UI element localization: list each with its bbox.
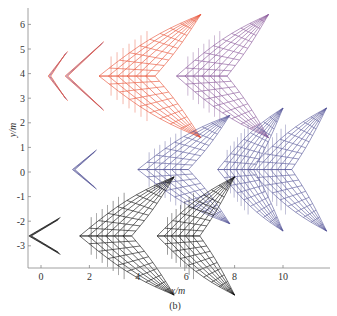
- x-tick-label: 8: [232, 271, 237, 282]
- formation-snapshot: [65, 42, 104, 111]
- plot-area: [29, 15, 327, 295]
- y-ticks: -3-2-10123456: [17, 19, 31, 251]
- series-formation-red: [48, 15, 268, 138]
- y-tick-label: -2: [17, 216, 25, 227]
- x-tick-label: 6: [184, 271, 189, 282]
- y-axis-label: y/m: [7, 123, 18, 138]
- trajectory-chart: 0246810 -3-2-10123456 x/m y/m (b): [0, 0, 337, 316]
- axes: 0246810 -3-2-10123456: [17, 8, 330, 282]
- y-tick-label: 2: [20, 117, 25, 128]
- y-tick-label: 0: [20, 167, 25, 178]
- y-tick-label: -3: [17, 240, 25, 251]
- y-tick-label: 4: [20, 68, 25, 79]
- x-tick-label: 0: [39, 271, 44, 282]
- formation-snapshot: [138, 115, 230, 223]
- x-axis-label: x/m: [170, 285, 185, 296]
- x-tick-label: 4: [135, 271, 140, 282]
- formation-snapshot: [29, 218, 60, 255]
- series-formation-black: [29, 177, 235, 295]
- x-ticks: 0246810: [39, 265, 289, 282]
- y-tick-label: 6: [20, 19, 25, 30]
- formation-snapshot: [249, 108, 326, 231]
- formation-snapshot: [157, 177, 234, 295]
- y-tick-label: 3: [20, 93, 25, 104]
- x-tick-label: 2: [87, 271, 92, 282]
- x-tick-label: 10: [278, 271, 288, 282]
- figure-caption: (b): [169, 300, 181, 312]
- y-tick-label: -1: [17, 191, 25, 202]
- y-tick-label: 5: [20, 44, 25, 55]
- y-tick-label: 1: [20, 142, 25, 153]
- formation-snapshot: [72, 150, 96, 189]
